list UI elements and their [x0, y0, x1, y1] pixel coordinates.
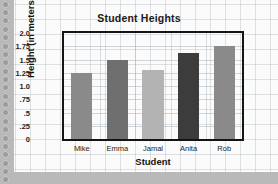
x-axis-tick-label: Mike	[64, 144, 100, 153]
x-axis-tick-label: Emma	[100, 144, 136, 153]
y-axis-tick-label: 1.25	[0, 68, 30, 77]
bar-jamal	[142, 70, 163, 139]
y-axis-tick-label: 1.5	[0, 55, 30, 64]
bar-rob	[214, 46, 235, 139]
binding-hole	[2, 9, 9, 16]
y-axis-tick-label: 2.0	[0, 29, 30, 38]
bar-anita	[178, 53, 199, 139]
y-axis-tick-label: 1.0	[0, 82, 30, 91]
x-axis-tick-label: Rob	[206, 144, 242, 153]
binding-hole	[2, 168, 9, 175]
gridline-vertical	[171, 33, 172, 139]
y-axis-tick-label: .75	[0, 95, 30, 104]
x-axis-label: Student	[62, 156, 244, 167]
x-axis-tick-label: Jamal	[135, 144, 171, 153]
x-axis-tick-label: Anita	[171, 144, 207, 153]
chart-title: Student Heights	[14, 12, 264, 24]
binding-hole	[2, 160, 9, 167]
binding-hole	[2, 1, 9, 8]
y-axis-tick-label: 1.75	[0, 42, 30, 51]
y-axis-tick-label: 0	[0, 135, 30, 144]
plot-area	[62, 31, 244, 141]
bar-chart: Student Heights Height (in meters) Stude…	[14, 4, 264, 168]
bar-mike	[71, 73, 92, 139]
gridline-vertical	[135, 33, 136, 139]
y-axis-tick-label: .25	[0, 121, 30, 130]
binding-hole	[2, 176, 9, 183]
binding-hole	[2, 17, 9, 24]
screenshot-root: Student Heights Height (in meters) Stude…	[0, 0, 278, 184]
gridline-vertical	[206, 33, 207, 139]
binding-hole	[2, 151, 9, 158]
bar-emma	[107, 60, 128, 140]
binding-hole	[2, 143, 9, 150]
gridline-vertical	[100, 33, 101, 139]
y-axis-tick-label: .5	[0, 108, 30, 117]
